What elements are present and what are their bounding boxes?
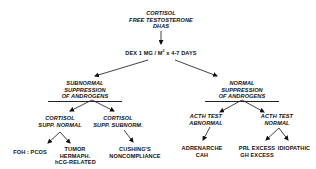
- leaf-prl-gh: PRL EXCESS GH EXCESS: [236, 145, 278, 158]
- leaf-cushings: CUSHING'S NONCOMPLIANCE: [109, 146, 161, 159]
- node-line: ACTH TEST: [255, 113, 299, 120]
- cortisol-supp-subnorm-node: CORTISOL SUPP. SUBNORM.: [92, 115, 144, 128]
- root-line: DHAS: [128, 23, 194, 30]
- node-line: SUPPRESSION: [205, 87, 279, 94]
- dex-test-node: DEX 1 MG / M2 x 4-7 DAYS: [118, 50, 204, 57]
- dex-prefix: DEX 1 MG / M: [125, 50, 162, 56]
- node-line: GH EXCESS: [236, 152, 278, 159]
- node-line: NORMAL: [255, 120, 299, 127]
- node-line: NORMAL: [205, 80, 279, 87]
- cortisol-supp-normal-node: CORTISOL SUPP. NORMAL: [37, 115, 83, 128]
- leaf-foh-pcos: FOH : PCOS: [7, 149, 53, 156]
- node-line: SUPPRESSION: [48, 87, 122, 94]
- root-line: CORTISOL: [128, 10, 194, 17]
- node-line: OF ANDROGENS: [48, 93, 122, 100]
- node-line: NONCOMPLIANCE: [109, 153, 161, 160]
- dex-suffix: x 4-7 DAYS: [165, 50, 197, 56]
- node-line: SUBNORMAL: [48, 80, 122, 87]
- node-line: ACTH TEST: [184, 113, 228, 120]
- acth-test-normal-node: ACTH TEST NORMAL: [255, 113, 299, 126]
- leaf-adrenarche: ADRENARCHE CAH: [180, 145, 224, 158]
- node-line: HERMAPH.: [55, 153, 95, 160]
- subnormal-suppression-node: SUBNORMAL SUPPRESSION OF ANDROGENS: [48, 80, 122, 102]
- root-node: CORTISOL FREE TESTOSTERONE DHAS: [128, 10, 194, 30]
- node-line: hCG-RELATED: [55, 159, 95, 166]
- node-line: PRL EXCESS: [236, 145, 278, 152]
- leaf-tumor: TUMOR HERMAPH. hCG-RELATED: [55, 146, 95, 166]
- node-line: OF ANDROGENS: [205, 93, 279, 100]
- node-line: CORTISOL: [37, 115, 83, 122]
- node-line: FOH : PCOS: [7, 149, 53, 156]
- node-line: SUPP. NORMAL: [37, 122, 83, 129]
- node-line: IDIOPATHIC: [276, 145, 312, 152]
- normal-suppression-node: NORMAL SUPPRESSION OF ANDROGENS: [205, 80, 279, 102]
- node-line: ADRENARCHE: [180, 145, 224, 152]
- node-line: ABNORMAL: [184, 120, 228, 127]
- node-line: CORTISOL: [92, 115, 144, 122]
- leaf-idiopathic: IDIOPATHIC: [276, 145, 312, 152]
- acth-test-abnormal-node: ACTH TEST ABNORMAL: [184, 113, 228, 126]
- node-line: CUSHING'S: [109, 146, 161, 153]
- node-line: SUPP. SUBNORM.: [92, 122, 144, 129]
- root-line: FREE TESTOSTERONE: [128, 17, 194, 24]
- node-line: TUMOR: [55, 146, 95, 153]
- node-line: CAH: [180, 152, 224, 159]
